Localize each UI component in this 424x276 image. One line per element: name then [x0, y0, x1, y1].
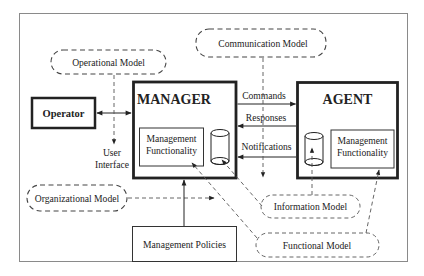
agent-functionality-label-2: Functionality: [337, 147, 388, 158]
agent-database-icon: [305, 133, 323, 166]
agent-node: AGENT Management Functionality: [298, 83, 398, 179]
operational-model-label: Operational Model: [72, 57, 145, 68]
responses-label: Responses: [246, 112, 287, 123]
operational-model: Operational Model: [51, 50, 166, 74]
organizational-model: Organizational Model: [27, 185, 127, 211]
operator-node: Operator: [32, 98, 95, 128]
functional-model-label: Functional Model: [283, 240, 352, 251]
information-model-manager-link: [222, 160, 262, 206]
functional-model-agent-link: [366, 170, 379, 233]
management-policies-label: Management Policies: [143, 239, 226, 250]
management-architecture-diagram: Operational Model Communication Model Op…: [0, 0, 424, 276]
manager-node: MANAGER Management Functionality: [134, 82, 237, 178]
agent-label: AGENT: [323, 92, 373, 107]
agent-functionality-label-1: Management: [337, 135, 387, 146]
information-model: Information Model: [261, 195, 360, 218]
communication-model-label: Communication Model: [218, 38, 308, 49]
manager-functionality-label-2: Functionality: [146, 145, 197, 156]
communication-model: Communication Model: [196, 29, 326, 57]
functional-model: Functional Model: [256, 233, 379, 257]
organizational-model-label: Organizational Model: [35, 193, 120, 204]
user-interface-label-2: Interface: [95, 159, 129, 170]
manager-functionality-label-1: Management: [146, 133, 196, 144]
manager-label: MANAGER: [137, 92, 212, 107]
information-model-label: Information Model: [274, 201, 348, 212]
manager-database-icon: [211, 130, 229, 165]
notifications-label: Notifications: [241, 141, 291, 152]
user-interface-label-1: User: [103, 147, 122, 158]
operator-label: Operator: [43, 108, 85, 119]
commands-label: Commands: [242, 90, 286, 101]
management-policies-node: Management Policies: [133, 227, 237, 262]
